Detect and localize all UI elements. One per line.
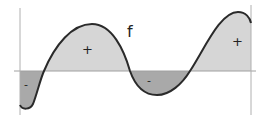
sign-label-pos-2: + [232,34,243,49]
sign-label-neg-middle: - [147,74,151,87]
sign-label-pos-1: + [82,42,93,57]
signed-area-diagram: f - + - + [0,0,265,121]
function-label: f [127,22,133,41]
sign-label-neg-left: - [24,78,28,91]
